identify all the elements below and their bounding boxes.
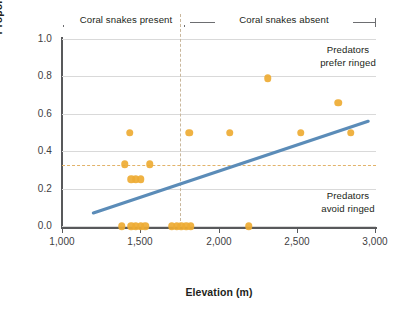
scatter-plot-figure: Coral snakes present Coral snakes absent… xyxy=(0,0,408,321)
y-axis-title: Proportion of total attacks on ringed re… xyxy=(0,0,16,42)
bracket-label-coral-snakes-present: Coral snakes present xyxy=(62,14,190,25)
data-point xyxy=(121,161,129,169)
x-tick-label-1500: 1,500 xyxy=(110,236,170,247)
bracket-label-coral-snakes-absent: Coral snakes absent xyxy=(215,14,353,25)
y-tick-label-0-0: 0.0 xyxy=(18,220,52,231)
data-point xyxy=(118,222,126,230)
data-point xyxy=(347,129,355,137)
y-tick-label-0-2: 0.2 xyxy=(18,183,52,194)
annotation-predators-prefer-ringed: Predators prefer ringed xyxy=(296,44,400,69)
data-point xyxy=(264,75,272,83)
data-point xyxy=(297,129,305,137)
gridline-0-0 xyxy=(62,226,376,227)
y-tick-label-0-8: 0.8 xyxy=(18,70,52,81)
x-tick-2000 xyxy=(219,228,220,233)
data-point xyxy=(335,99,343,107)
annotation-bottom-line2: avoid ringed xyxy=(296,203,400,216)
data-point xyxy=(187,222,195,230)
x-tick-label-2000: 2,000 xyxy=(189,236,249,247)
x-tick-label-3000: 3,000 xyxy=(345,236,405,247)
x-tick-label-2500: 2,500 xyxy=(267,236,327,247)
x-tick-1000 xyxy=(62,228,63,233)
annotation-top-line1: Predators xyxy=(296,44,400,57)
data-point xyxy=(146,161,154,169)
x-axis-title: Elevation (m) xyxy=(62,286,376,298)
y-tick-label-0-6: 0.6 xyxy=(18,108,52,119)
y-tick-label-1-0: 1.0 xyxy=(18,33,52,44)
bracket-group: Coral snakes present Coral snakes absent xyxy=(0,12,408,34)
data-point xyxy=(185,129,193,137)
x-tick-label-1000: 1,000 xyxy=(32,236,92,247)
annotation-top-line2: prefer ringed xyxy=(296,57,400,70)
annotation-bottom-line1: Predators xyxy=(296,190,400,203)
x-tick-3000 xyxy=(375,228,376,233)
x-tick-2500 xyxy=(297,228,298,233)
bracket-cap-right xyxy=(375,18,376,27)
data-point xyxy=(137,176,145,184)
data-point xyxy=(126,129,134,137)
data-point xyxy=(245,222,253,230)
data-point xyxy=(141,222,149,230)
annotation-predators-avoid-ringed: Predators avoid ringed xyxy=(296,190,400,215)
data-point xyxy=(226,129,234,137)
y-tick-label-0-4: 0.4 xyxy=(18,145,52,156)
